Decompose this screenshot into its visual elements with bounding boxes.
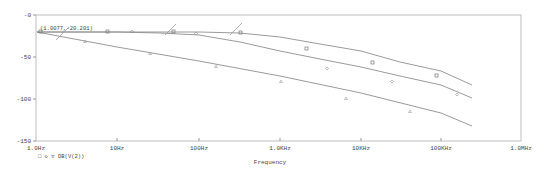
square-markers	[39, 30, 438, 77]
y-tick-label: -150	[17, 138, 32, 145]
x-tick-label: 10Hz	[110, 145, 125, 152]
x-tick-label: 100KHz	[430, 145, 452, 152]
bode-plot: -0 -50 -100 -150 1.0Hz 10Hz 100Hz 1.0KHz…	[0, 0, 539, 170]
y-tick-label: -0	[24, 12, 32, 19]
trace-2	[37, 32, 472, 98]
traces	[37, 32, 472, 126]
y-axis: -0 -50 -100 -150	[17, 12, 36, 145]
x-tick-label: 100Hz	[190, 145, 208, 152]
plot-frame	[36, 15, 521, 141]
x-tick-label: 1.0Hz	[27, 145, 45, 152]
triangle-markers	[84, 40, 412, 113]
x-tick-label: 1.0MHz	[510, 145, 532, 152]
x-tick-label: 1.0KHz	[269, 145, 291, 152]
trace-3	[37, 32, 472, 126]
cursor-annotation: (1.0077,-20.201)	[40, 25, 93, 32]
legend-entry: DB(V(2))	[58, 153, 84, 160]
x-axis: 1.0Hz 10Hz 100Hz 1.0KHz 10KHz 100KHz 1.0…	[27, 138, 532, 166]
y-tick-label: -50	[20, 54, 31, 61]
x-axis-label: Frequency	[254, 159, 287, 166]
legend-markers: □ ◇ ▽	[38, 153, 55, 160]
legend: □ ◇ ▽ DB(V(2))	[38, 153, 84, 160]
x-tick-label: 10KHz	[352, 145, 370, 152]
y-tick-label: -100	[17, 96, 32, 103]
